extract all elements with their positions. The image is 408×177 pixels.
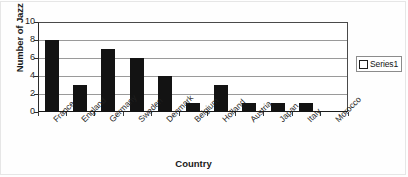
legend-swatch-series1 <box>359 60 368 69</box>
x-axis-title: Country <box>38 158 349 169</box>
bar-slot <box>320 22 348 112</box>
bar-slot <box>292 22 320 112</box>
chart-legend: Series1 <box>356 56 402 72</box>
chart-screenshot: Number of Jazz Musicians 0246810 FranceE… <box>0 0 408 177</box>
bar <box>45 40 59 112</box>
bar-slot <box>263 22 291 112</box>
x-axis-tick-mark <box>38 112 39 116</box>
y-axis-tick-marks <box>0 22 40 113</box>
bar <box>73 85 87 112</box>
legend-label-series1: Series1 <box>370 59 398 69</box>
x-axis-category-labels: FranceEnglandGermanySwedenDenmarkBelgium… <box>38 117 349 153</box>
bar-slot <box>38 22 66 112</box>
